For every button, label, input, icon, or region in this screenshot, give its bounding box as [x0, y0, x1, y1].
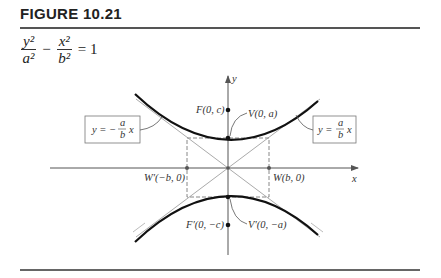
asymptote-negative-leader [140, 117, 162, 130]
co-vertex-right-point [267, 166, 271, 170]
asymptote-negative-num: a [120, 117, 125, 128]
co-vertex-left-point [185, 166, 189, 170]
hyperbola-lower-branch [135, 196, 318, 242]
co-vertex-right-label: W(b, 0) [273, 172, 305, 184]
asymptote-positive-num: a [338, 117, 343, 128]
asymptote-negative-lhs: y = − [91, 124, 116, 135]
bottom-rule [20, 269, 420, 271]
asymptote-positive-lhs: y = [317, 124, 332, 135]
asymptote-negative-var: x [128, 124, 134, 135]
asymptote-shadow [133, 223, 145, 232]
focus-top-point [226, 108, 231, 113]
y-axis-label: y [231, 73, 237, 84]
asymptote-positive-den: b [338, 129, 343, 140]
focus-bottom-point [226, 223, 231, 228]
vertex-top-label: V(0, a) [248, 108, 278, 120]
origin-point [226, 166, 230, 170]
x-axis-label: x [351, 173, 357, 184]
focus-bottom-label: F′(0, −c) [185, 219, 224, 231]
asymptote-negative-den: b [120, 129, 125, 140]
vertex-bottom-label: V′(0, −a) [248, 219, 287, 231]
hyperbola-diagram: x y F(0, c) V(0, a) W′(−b, 0) W(b, 0) F′… [0, 0, 441, 278]
focus-top-label: F(0, c) [195, 104, 225, 116]
vertex-top-leader [230, 113, 247, 136]
asymptote-positive-var: x [346, 124, 352, 135]
co-vertex-left-label: W′(−b, 0) [144, 172, 185, 184]
vertex-top-point [226, 136, 231, 141]
vertex-bottom-leader [230, 199, 247, 224]
hyperbola-upper-branch [135, 94, 318, 140]
vertex-bottom-point [226, 195, 231, 200]
